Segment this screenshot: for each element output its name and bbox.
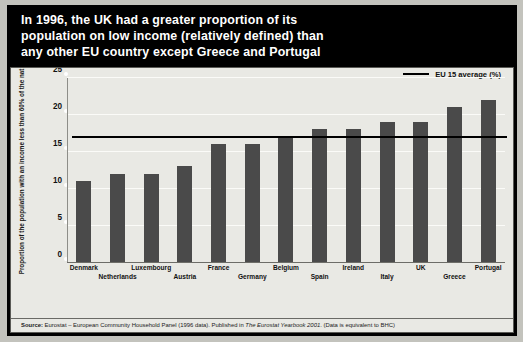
bar xyxy=(312,129,327,262)
bar xyxy=(144,174,159,263)
bar xyxy=(110,174,125,263)
bar xyxy=(278,137,293,263)
y-tick-label: 5 xyxy=(57,212,62,221)
legend-line-marker-icon xyxy=(403,73,429,76)
y-axis-line xyxy=(67,78,68,263)
y-tick-label: 10 xyxy=(53,175,62,184)
x-axis-label-text: France xyxy=(208,264,230,271)
y-tick-label: 20 xyxy=(53,101,62,110)
chart-card: Proportion of the population with an inc… xyxy=(10,67,514,333)
bar xyxy=(211,144,226,262)
title-line-3: any other EU country except Greece and P… xyxy=(21,44,503,60)
source-text-suffix: . (Data is equivalent to BHC) xyxy=(320,322,395,328)
title-line-1: In 1996, the UK had a greater proportion… xyxy=(21,12,503,28)
bar xyxy=(177,166,192,262)
x-axis-label-text: Luxembourg xyxy=(131,264,171,271)
x-axis-label-text: Denmark xyxy=(70,264,98,271)
bar xyxy=(380,122,395,263)
y-axis-label: Proportion of the population with an inc… xyxy=(12,68,30,276)
chart-panel: In 1996, the UK had a greater proportion… xyxy=(7,5,517,336)
bar xyxy=(346,129,361,262)
bar-series xyxy=(67,78,505,263)
x-axis-label-text: Ireland xyxy=(343,264,365,271)
x-axis-label-text: Italy xyxy=(380,273,393,280)
y-tick-label: 25 xyxy=(53,67,62,74)
source-note: Source: Eurostat – European Community Ho… xyxy=(11,318,513,333)
bar xyxy=(447,107,462,262)
bar xyxy=(413,122,428,263)
y-axis-label-text: Proportion of the population with an inc… xyxy=(17,69,25,274)
x-axis-line xyxy=(67,262,505,263)
x-axis-label-text: Portugal xyxy=(475,264,502,271)
source-prefix: Source: xyxy=(21,322,45,328)
bar xyxy=(76,181,91,262)
eu-15-average-line xyxy=(72,136,507,138)
chart-title: In 1996, the UK had a greater proportion… xyxy=(7,5,517,67)
y-tick-label: 15 xyxy=(53,138,62,147)
chart-plot-region: Proportion of the population with an inc… xyxy=(11,68,513,318)
y-tick-dot xyxy=(64,72,68,76)
x-axis-label-text: Germany xyxy=(238,273,267,280)
y-tick-label: 0 xyxy=(57,249,62,258)
figure-container: In 1996, the UK had a greater proportion… xyxy=(0,0,523,342)
plot-area: 0510152025 xyxy=(67,78,505,263)
x-axis-label-text: Austria xyxy=(174,273,197,280)
x-axis-label-text: Netherlands xyxy=(98,273,136,280)
x-axis-label-text: Belgium xyxy=(273,264,299,271)
source-text-body: Eurostat – European Community Household … xyxy=(45,322,246,328)
bar xyxy=(245,144,260,262)
x-axis-label-text: Greece xyxy=(443,273,465,280)
x-axis-labels: DenmarkNetherlandsLuxembourgAustriaFranc… xyxy=(67,264,505,290)
source-publication-title: The Eurostat Yearbook 2001 xyxy=(245,322,320,328)
bar xyxy=(481,100,496,263)
title-line-2: population on low income (relatively def… xyxy=(21,28,503,44)
x-axis-label-text: UK xyxy=(416,264,426,271)
x-axis-label-text: Spain xyxy=(311,273,329,280)
